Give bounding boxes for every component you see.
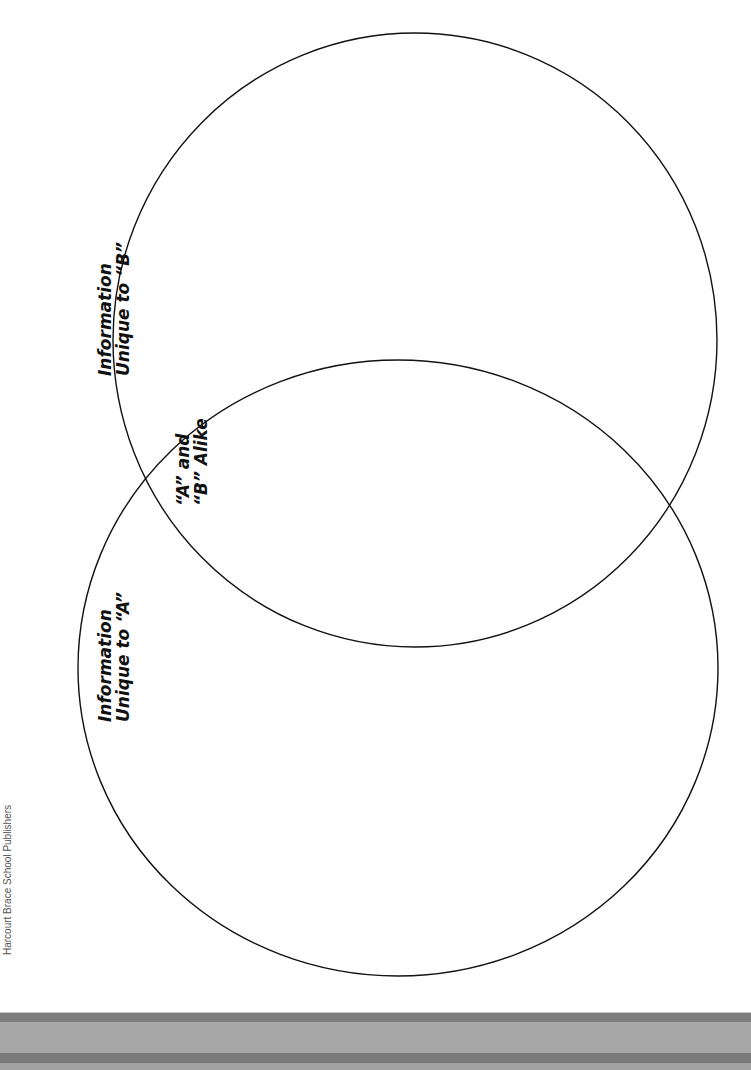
label-alike-line2: “B” Alike bbox=[192, 418, 210, 506]
footer-band-light-bottom bbox=[0, 1063, 751, 1070]
publisher-credit: Harcourt Brace School Publishers bbox=[2, 805, 13, 955]
footer-band-dark-bottom bbox=[0, 1053, 751, 1063]
circle-b bbox=[113, 33, 717, 647]
venn-diagram bbox=[0, 0, 751, 1070]
footer-band-mid bbox=[0, 1022, 751, 1053]
label-unique-to-b-line2: Unique to “B” bbox=[114, 242, 132, 376]
label-unique-to-a-line2: Unique to “A” bbox=[114, 592, 132, 722]
label-alike-line1: “A” and bbox=[174, 418, 192, 506]
label-a-and-b-alike: “A” and “B” Alike bbox=[174, 418, 210, 506]
label-unique-to-a-line1: Information bbox=[96, 592, 114, 722]
label-unique-to-b-line1: Information bbox=[96, 242, 114, 376]
label-unique-to-b: Information Unique to “B” bbox=[96, 242, 132, 376]
footer-band-dark-top bbox=[0, 1013, 751, 1022]
label-unique-to-a: Information Unique to “A” bbox=[96, 592, 132, 722]
